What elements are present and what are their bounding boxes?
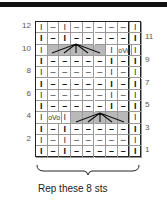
row-number-right: 3 [145,123,149,132]
row-number-left: 2 [17,134,31,143]
row-number-left: 10 [17,44,31,53]
row-number-right: 5 [145,100,149,109]
cable-symbols [0,0,167,208]
row-number-left: 8 [17,66,31,75]
row-number-right: 7 [145,78,149,87]
row-number-left: 6 [17,89,31,98]
repeat-brace [37,165,139,175]
row-number-left: 4 [17,111,31,120]
row-number-right: 9 [145,55,149,64]
cable-icon-row10 [52,44,100,53]
cable-icon-row4 [76,113,124,122]
row-number-left: 12 [17,21,31,30]
repeat-caption: Rep these 8 sts [38,183,107,194]
row-number-right: 11 [145,32,153,41]
row-number-right: 1 [145,145,149,154]
